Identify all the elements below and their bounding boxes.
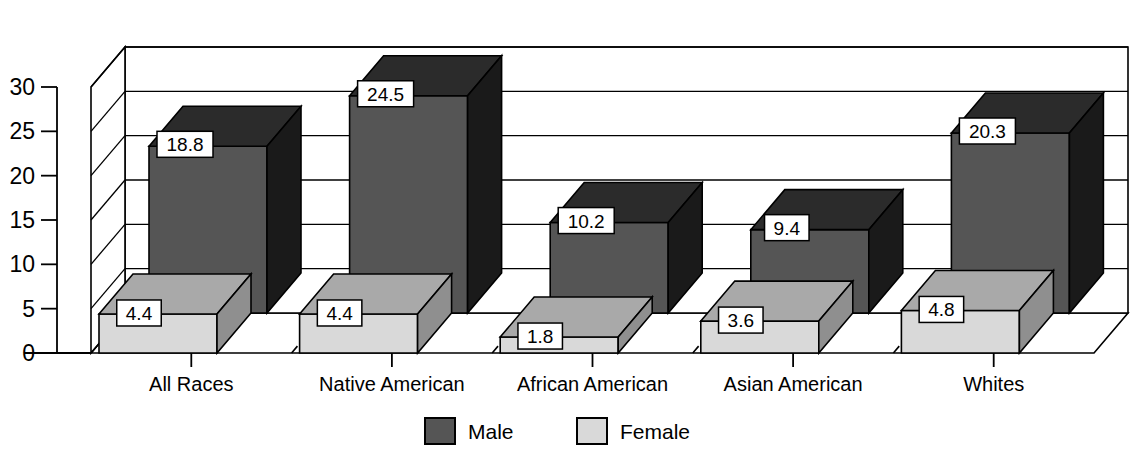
y-tick-label: 5 [22,296,35,322]
label-male-text: 20.3 [969,121,1006,142]
legend-label-male: Male [468,420,514,443]
category-label: Asian American [724,373,863,395]
y-tick-label: 25 [9,118,35,144]
bar-chart-3d: 051015202530 18.84.424.54.410.21.89.43.6… [0,0,1142,464]
label-female-text: 4.8 [928,299,954,320]
label-male-text: 10.2 [568,211,605,232]
chart-container: 051015202530 18.84.424.54.410.21.89.43.6… [0,0,1142,464]
y-tick-label: 20 [9,163,35,189]
category-label: African American [517,373,668,395]
bar-male-side [1069,93,1103,313]
label-male-text: 18.8 [167,134,204,155]
y-tick-label: 15 [9,207,35,233]
y-tick-label: 0 [22,340,35,366]
label-male-text: 24.5 [367,84,404,105]
label-female-text: 3.6 [728,310,754,331]
legend-swatch-male [425,418,455,444]
category-label: Whites [963,373,1024,395]
label-male-text: 9.4 [774,218,801,239]
label-female-text: 4.4 [126,303,153,324]
legend-label-female: Female [620,420,690,443]
legend-swatch-female [577,418,607,444]
label-female-text: 1.8 [527,326,553,347]
label-female-text: 4.4 [326,303,353,324]
chart-legend: MaleFemale [425,418,690,444]
y-tick-label: 30 [9,74,35,100]
y-axis-ticks: 051015202530 [9,74,57,366]
y-tick-label: 10 [9,251,35,277]
category-labels: All RacesNative AmericanAfrican American… [149,353,1024,395]
category-label: All Races [149,373,233,395]
bar-male-side [468,56,502,313]
category-label: Native American [319,373,465,395]
